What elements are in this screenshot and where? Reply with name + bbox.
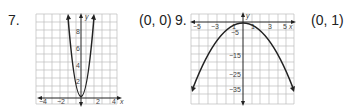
svg-text:−4: −4 (39, 98, 47, 105)
svg-text:−3: −3 (211, 23, 219, 30)
svg-text:5: 5 (283, 23, 287, 30)
graph-7: y x 8 6 4 2 −4 −2 2 4 (36, 13, 124, 107)
svg-text:2: 2 (96, 98, 100, 105)
svg-text:4: 4 (112, 98, 116, 105)
svg-text:−35: −35 (229, 86, 241, 93)
svg-text:x: x (288, 23, 293, 30)
svg-text:6: 6 (76, 45, 80, 52)
graph-9: y x −5 −3 1 1 3 5 −5 −15 −25 −35 (190, 12, 296, 106)
svg-text:8: 8 (76, 28, 80, 35)
svg-text:−2: −2 (57, 98, 65, 105)
svg-text:y: y (245, 12, 250, 20)
graphs: y x 8 6 4 2 −4 −2 2 4 y x −5 −3 1 1 3 5 … (0, 0, 350, 112)
svg-text:−25: −25 (229, 71, 241, 78)
svg-text:3: 3 (268, 23, 272, 30)
svg-text:−5: −5 (231, 29, 239, 36)
svg-text:y: y (84, 13, 89, 21)
svg-text:x: x (119, 98, 124, 105)
svg-text:−5: −5 (193, 23, 201, 30)
svg-text:4: 4 (76, 62, 80, 69)
svg-text:2: 2 (76, 78, 80, 85)
svg-text:−15: −15 (229, 52, 241, 59)
